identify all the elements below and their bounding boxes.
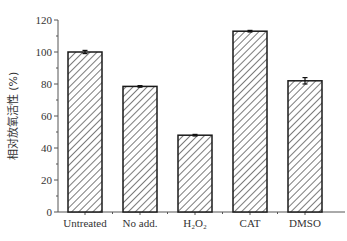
y-tick-label: 60 <box>41 110 53 122</box>
bars <box>68 30 322 212</box>
x-axis: UntreatedNo add.H₂O₂CATDMSO <box>58 212 345 229</box>
bar-chart: 020406080100120 UntreatedNo add.H₂O₂CATD… <box>0 0 347 241</box>
y-tick-label: 0 <box>47 206 53 218</box>
bar-untreated <box>68 50 102 212</box>
x-category-label: No add. <box>123 217 158 229</box>
bar-no-add- <box>123 86 157 212</box>
x-category-label: Untreated <box>63 217 107 229</box>
y-tick-label: 40 <box>41 142 53 154</box>
x-category-label: DMSO <box>289 217 321 229</box>
bar-cat <box>233 30 267 212</box>
y-tick-label: 120 <box>36 14 53 26</box>
bar-dmso <box>288 78 322 212</box>
y-axis: 020406080100120 <box>36 14 59 218</box>
x-category-label: CAT <box>240 217 261 229</box>
bar-h-o- <box>178 134 212 212</box>
y-tick-label: 80 <box>41 78 53 90</box>
y-axis-label: 相对放氧活性 (%) <box>6 72 20 161</box>
y-tick-label: 100 <box>36 46 53 58</box>
x-category-label: H₂O₂ <box>183 217 207 229</box>
y-tick-label: 20 <box>41 174 53 186</box>
svg-text:相对放氧活性 (%): 相对放氧活性 (%) <box>6 72 20 161</box>
